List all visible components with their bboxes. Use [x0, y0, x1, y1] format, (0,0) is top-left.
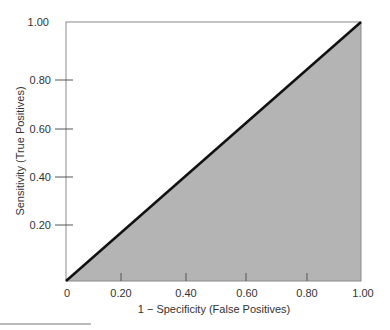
y-tick-label: 0.40 [30, 171, 51, 183]
x-tick-label: 0.20 [110, 287, 131, 299]
x-tick-label: 0.40 [175, 287, 196, 299]
x-axis-title: 1 − Specificity (False Positives) [138, 303, 291, 315]
y-axis-ticks [55, 80, 73, 225]
x-tick-label: 1.00 [352, 287, 373, 299]
y-tick-label: 0.20 [30, 219, 51, 231]
x-tick-label: 0.80 [296, 287, 317, 299]
y-tick-label: 1.00 [28, 16, 49, 28]
y-axis-title: Sensitivity (True Positives) [14, 86, 26, 215]
y-tick-label: 0.80 [30, 74, 51, 86]
roc-chart: 1.00 0.80 0.60 0.40 0.20 0 0.20 0.40 0.6… [0, 0, 390, 330]
x-tick-label: 0 [64, 287, 70, 299]
y-tick-label: 0.60 [30, 123, 51, 135]
x-tick-label: 0.60 [236, 287, 257, 299]
